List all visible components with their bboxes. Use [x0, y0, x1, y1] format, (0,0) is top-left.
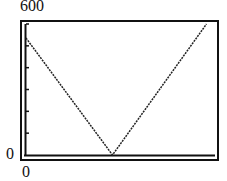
plot-area — [0, 0, 227, 181]
plot-frame — [21, 21, 218, 160]
data-line — [26, 24, 207, 155]
